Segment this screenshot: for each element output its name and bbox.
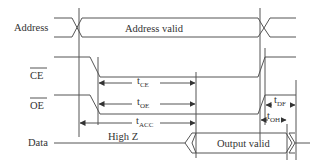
svg-text:tOE: tOE	[137, 96, 149, 110]
signal-label-data: Data	[28, 137, 48, 148]
high-z-label: High Z	[108, 131, 138, 142]
signal-label-ce: CE	[30, 70, 43, 81]
address-valid-label: Address valid	[125, 23, 184, 34]
timing-tdf: tDF	[266, 94, 295, 108]
timing-toe: tOE	[99, 96, 195, 110]
memory-read-timing-diagram: Address CE OE Data Address valid High Z …	[0, 0, 325, 166]
signal-label-address: Address	[14, 22, 48, 33]
signal-label-oe: OE	[30, 100, 44, 111]
data-waveform	[54, 133, 310, 153]
timing-tacc: tACC	[80, 115, 195, 129]
svg-text:tOH: tOH	[267, 110, 280, 124]
svg-text:tACC: tACC	[136, 115, 154, 129]
svg-text:tDF: tDF	[274, 94, 286, 108]
output-valid-label: Output valid	[217, 138, 271, 149]
